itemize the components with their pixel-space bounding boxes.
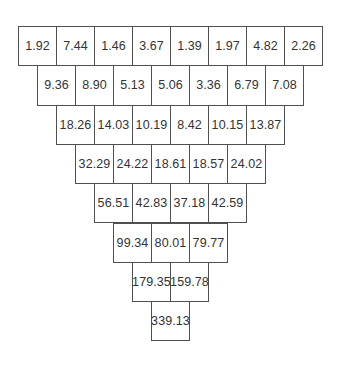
pyramid-cell: 5.06 (151, 65, 190, 105)
pyramid-cell: 79.77 (189, 223, 228, 263)
pyramid-cell: 339.13 (151, 301, 190, 341)
pyramid-cell: 6.79 (227, 65, 266, 105)
pyramid-cell: 1.92 (18, 26, 57, 66)
pyramid-cell: 8.42 (170, 105, 209, 145)
pyramid-cell: 3.36 (189, 65, 228, 105)
pyramid-cell: 42.59 (208, 183, 247, 223)
pyramid-cell: 179.35 (132, 262, 171, 302)
pyramid-cell: 10.15 (208, 105, 247, 145)
pyramid-cell: 24.22 (113, 144, 152, 184)
pyramid-cell: 7.44 (56, 26, 95, 66)
pyramid-cell: 99.34 (113, 223, 152, 263)
pyramid-cell: 1.46 (94, 26, 133, 66)
pyramid-cell: 14.03 (94, 105, 133, 145)
pyramid-cell: 37.18 (170, 183, 209, 223)
pyramid-cell: 9.36 (37, 65, 76, 105)
pyramid-cell: 2.26 (284, 26, 323, 66)
pyramid-cell: 18.26 (56, 105, 95, 145)
pyramid-cell: 7.08 (265, 65, 304, 105)
pyramid-cell: 4.82 (246, 26, 285, 66)
pyramid-cell: 159.78 (170, 262, 209, 302)
pyramid-cell: 1.97 (208, 26, 247, 66)
pyramid-cell: 42.83 (132, 183, 171, 223)
pyramid-cell: 5.13 (113, 65, 152, 105)
pyramid-cell: 10.19 (132, 105, 171, 145)
pyramid-cell: 13.87 (246, 105, 285, 145)
pyramid-cell: 80.01 (151, 223, 190, 263)
number-pyramid: 1.927.441.463.671.391.974.822.269.368.90… (0, 0, 340, 365)
pyramid-cell: 56.51 (94, 183, 133, 223)
pyramid-cell: 24.02 (227, 144, 266, 184)
pyramid-cell: 18.57 (189, 144, 228, 184)
pyramid-cell: 3.67 (132, 26, 171, 66)
pyramid-cell: 8.90 (75, 65, 114, 105)
pyramid-cell: 32.29 (75, 144, 114, 184)
pyramid-cell: 1.39 (170, 26, 209, 66)
pyramid-cell: 18.61 (151, 144, 190, 184)
